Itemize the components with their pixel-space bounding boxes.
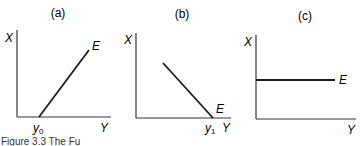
panel-b-title: (b) — [175, 7, 190, 21]
panel-b-line-e — [163, 63, 213, 118]
panel-b: (b) X Y E y1 — [123, 7, 231, 136]
panel-a-intercept-label: y0 — [32, 121, 44, 136]
panel-a-line-label: E — [92, 39, 101, 53]
panel-a-title: (a) — [51, 6, 66, 20]
panel-a-line-e — [39, 50, 89, 117]
panel-b-line-label: E — [216, 102, 225, 116]
panel-c-line-label: E — [339, 73, 348, 87]
panel-c-x-label: Y — [347, 123, 356, 137]
panel-c-title: (c) — [298, 9, 312, 23]
panel-a-x-label: Y — [100, 121, 109, 135]
panel-a: (a) X Y E y0 — [4, 6, 111, 136]
panel-a-y-label: X — [4, 31, 14, 45]
panel-c: (c) X Y E — [243, 9, 356, 137]
figure-caption: Figure 3.3 The Fu — [1, 136, 80, 146]
panel-b-y-label: X — [123, 33, 133, 47]
figure-canvas: (a) X Y E y0 (b) X Y E y1 (c) X Y E — [0, 0, 360, 146]
panel-b-intercept-label: y1 — [204, 121, 216, 136]
panel-c-y-label: X — [243, 35, 253, 49]
panel-b-x-label: Y — [222, 121, 231, 135]
